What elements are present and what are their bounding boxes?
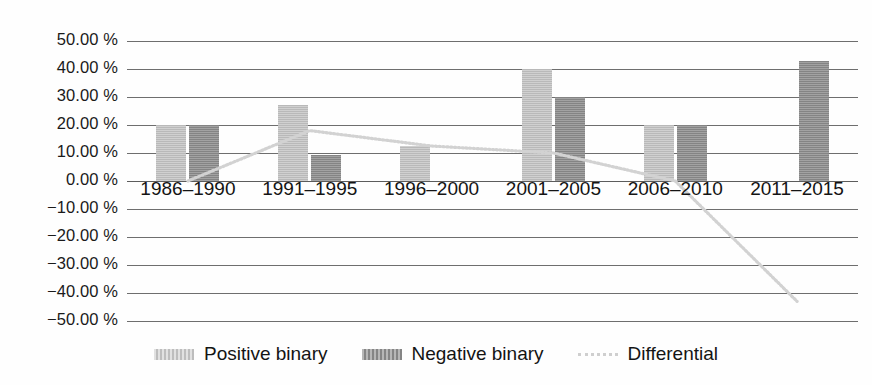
x-axis-tick-label: 2001–2005 (493, 178, 615, 200)
y-axis-labels: 50.00 %40.00 %30.00 %20.00 %10.00 %0.00 … (0, 41, 118, 321)
x-axis-labels: 1986–19901991–19951996–20002001–20052006… (127, 178, 858, 202)
bar-positive-binary (278, 105, 308, 181)
y-axis-tick-label: −30.00 % (8, 254, 118, 273)
dotted-line-swatch-icon (578, 353, 618, 359)
bar-negative-binary (189, 125, 219, 181)
legend-label-negative-binary: Negative binary (412, 343, 544, 365)
y-axis-tick-label: −20.00 % (8, 226, 118, 245)
x-axis-tick-label: 2006–2010 (614, 178, 736, 200)
chart-figure: 50.00 %40.00 %30.00 %20.00 %10.00 %0.00 … (0, 0, 872, 385)
y-axis-tick-label: −40.00 % (8, 282, 118, 301)
bar-positive-binary (644, 125, 674, 181)
bar-positive-binary (400, 146, 430, 181)
chart-legend: Positive binary Negative binary Differen… (0, 343, 872, 365)
y-axis-tick-label: 20.00 % (8, 114, 118, 133)
legend-label-differential: Differential (628, 343, 718, 365)
bar-negative-binary (555, 97, 585, 181)
bar-positive-binary (522, 69, 552, 181)
y-axis-tick-label: 50.00 % (8, 30, 118, 49)
legend-item-positive-binary: Positive binary (154, 343, 328, 365)
y-axis-tick-label: 30.00 % (8, 86, 118, 105)
legend-item-negative-binary: Negative binary (362, 343, 544, 365)
y-axis-tick-label: −10.00 % (8, 198, 118, 217)
x-axis-tick-label: 1986–1990 (127, 178, 249, 200)
x-axis-tick-label: 2011–2015 (736, 178, 858, 200)
gridline (127, 321, 858, 322)
legend-label-positive-binary: Positive binary (204, 343, 328, 365)
x-axis-tick-label: 1991–1995 (249, 178, 371, 200)
x-axis-tick-label: 1996–2000 (371, 178, 493, 200)
bar-swatch-light-icon (154, 349, 194, 360)
legend-item-differential: Differential (578, 343, 718, 365)
bar-swatch-dark-icon (362, 349, 402, 360)
y-axis-tick-label: 0.00 % (8, 170, 118, 189)
y-axis-tick-label: −50.00 % (8, 310, 118, 329)
bar-negative-binary (677, 125, 707, 181)
y-axis-tick-label: 40.00 % (8, 58, 118, 77)
bar-negative-binary (799, 61, 829, 181)
y-axis-tick-label: 10.00 % (8, 142, 118, 161)
bar-positive-binary (156, 125, 186, 181)
